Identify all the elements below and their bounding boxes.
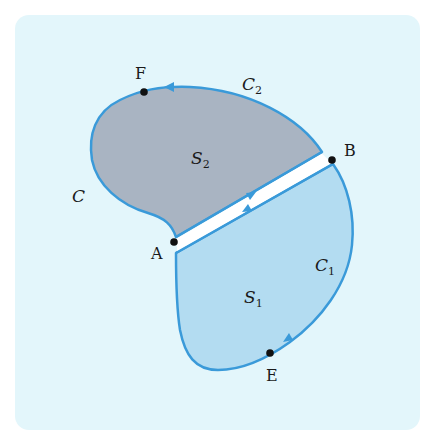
label-c2-sub: 2 [255, 84, 262, 97]
label-f: F [135, 64, 146, 83]
region-diagram: F B A E C C2 C1 S2 S1 [0, 0, 436, 447]
label-s1-base: S [244, 287, 256, 307]
label-e: E [266, 366, 278, 385]
point-b [328, 156, 336, 164]
label-s2-base: S [191, 148, 203, 168]
label-c: C [72, 186, 85, 206]
label-c2-base: C [242, 74, 255, 94]
label-a: A [150, 244, 163, 263]
label-s1-sub: 1 [256, 297, 263, 310]
label-c2: C2 [242, 74, 262, 97]
label-c1-base: C [315, 255, 328, 275]
label-c1-sub: 1 [328, 265, 335, 278]
point-a [170, 238, 178, 246]
label-s2-sub: 2 [203, 158, 210, 171]
point-e [266, 349, 274, 357]
point-f [140, 88, 148, 96]
label-b: B [344, 141, 356, 160]
